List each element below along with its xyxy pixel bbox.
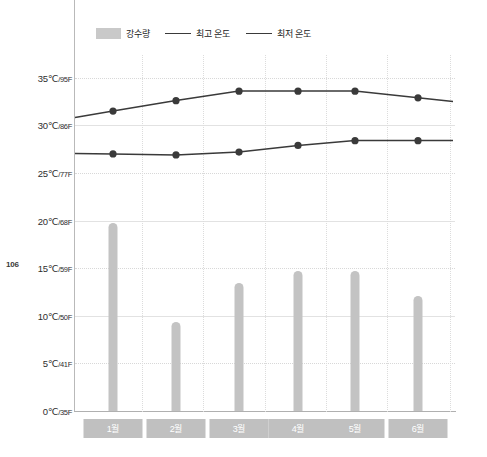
data-point-marker: 최저 온도 6월: 28.4 bbox=[414, 137, 421, 144]
legend-item[interactable]: 최고 온도 bbox=[165, 27, 230, 40]
plot-area: 최고 온도 1월: 31.5최고 온도 2월: 32.6최고 온도 3월: 33… bbox=[75, 0, 455, 412]
y-tick-label: 0℃/35F bbox=[43, 406, 72, 417]
line-path bbox=[75, 91, 453, 117]
legend-item[interactable]: 최저 온도 bbox=[246, 27, 311, 40]
data-point-marker: 최고 온도 4월: 33.6 bbox=[294, 88, 301, 95]
x-category-label: 3월 bbox=[233, 422, 246, 435]
y-tick-label: 15℃/59F bbox=[38, 263, 72, 274]
x-category-badge: 5월 bbox=[326, 419, 385, 438]
x-category-badge: 2월 bbox=[147, 419, 206, 438]
y-tick-fahrenheit: /35F bbox=[58, 408, 72, 417]
y-tick-celsius: 5℃ bbox=[43, 358, 58, 369]
data-point-marker: 최고 온도 1월: 31.5 bbox=[109, 108, 116, 115]
data-point-marker: 최고 온도 3월: 33.6 bbox=[235, 88, 242, 95]
data-point-marker: 최저 온도 5월: 28.4 bbox=[351, 137, 358, 144]
y-tick-fahrenheit: /86F bbox=[58, 122, 72, 131]
y-tick-fahrenheit: /68F bbox=[58, 217, 72, 226]
line-series-group: 최고 온도 1월: 31.5최고 온도 2월: 32.6최고 온도 3월: 33… bbox=[75, 0, 455, 412]
legend-label: 최저 온도 bbox=[277, 27, 311, 40]
y-tick-celsius: 0℃ bbox=[43, 406, 58, 417]
data-point-marker: 최저 온도 2월: 26.9 bbox=[172, 151, 179, 158]
y-tick-celsius: 15℃ bbox=[38, 263, 58, 274]
y-tick-label: 35℃/95F bbox=[38, 72, 72, 83]
legend-item[interactable]: 강수량 bbox=[96, 27, 149, 40]
data-point-marker: 최저 온도 4월: 27.9 bbox=[294, 142, 301, 149]
x-category-badge: 1월 bbox=[84, 419, 143, 438]
legend-label: 강수량 bbox=[126, 27, 149, 40]
data-point-marker: 최고 온도 2월: 32.6 bbox=[172, 97, 179, 104]
x-category-badge: 3월 bbox=[210, 419, 269, 438]
y-tick-celsius: 25℃ bbox=[38, 168, 58, 179]
y-tick-celsius: 10℃ bbox=[38, 310, 58, 321]
y-tick-fahrenheit: /77F bbox=[58, 170, 72, 179]
y-axis-tick-labels: 0℃/35F5℃/41F10℃/50F15℃/59F20℃/68F25℃/77F… bbox=[0, 0, 72, 412]
y-tick-celsius: 30℃ bbox=[38, 120, 58, 131]
data-point-marker: 최저 온도 1월: 27 bbox=[109, 150, 116, 157]
line-swatch-icon bbox=[246, 33, 272, 34]
y-tick-fahrenheit: /95F bbox=[58, 74, 72, 83]
x-category-badge: 4월 bbox=[269, 419, 328, 438]
data-point-marker: 최저 온도 3월: 27.2 bbox=[235, 148, 242, 155]
y-tick-fahrenheit: /59F bbox=[58, 265, 72, 274]
y-tick-celsius: 35℃ bbox=[38, 72, 58, 83]
line-swatch-icon bbox=[165, 33, 191, 34]
data-point-marker: 최고 온도 6월: 32.9 bbox=[414, 94, 421, 101]
y-tick-fahrenheit: /41F bbox=[58, 360, 72, 369]
x-category-badge: 6월 bbox=[389, 419, 448, 438]
x-category-label: 5월 bbox=[349, 422, 362, 435]
y-tick-fahrenheit: /50F bbox=[58, 312, 72, 321]
chart-legend: 강수량최고 온도최저 온도 bbox=[96, 27, 310, 40]
x-category-label: 4월 bbox=[292, 422, 305, 435]
y-tick-celsius: 20℃ bbox=[38, 215, 58, 226]
y-tick-label: 5℃/41F bbox=[43, 358, 72, 369]
bar-swatch-icon bbox=[96, 28, 121, 39]
y-tick-label: 30℃/86F bbox=[38, 120, 72, 131]
x-category-label: 6월 bbox=[412, 422, 425, 435]
y-tick-label: 20℃/68F bbox=[38, 215, 72, 226]
legend-label: 최고 온도 bbox=[196, 27, 230, 40]
y-tick-label: 10℃/50F bbox=[38, 310, 72, 321]
y-tick-label: 25℃/77F bbox=[38, 168, 72, 179]
x-category-label: 1월 bbox=[107, 422, 120, 435]
data-point-marker: 최고 온도 5월: 33.6 bbox=[351, 88, 358, 95]
x-category-label: 2월 bbox=[170, 422, 183, 435]
chart-page: 106 0℃/35F5℃/41F10℃/50F15℃/59F20℃/68F25℃… bbox=[0, 0, 487, 457]
line-path bbox=[75, 141, 453, 155]
